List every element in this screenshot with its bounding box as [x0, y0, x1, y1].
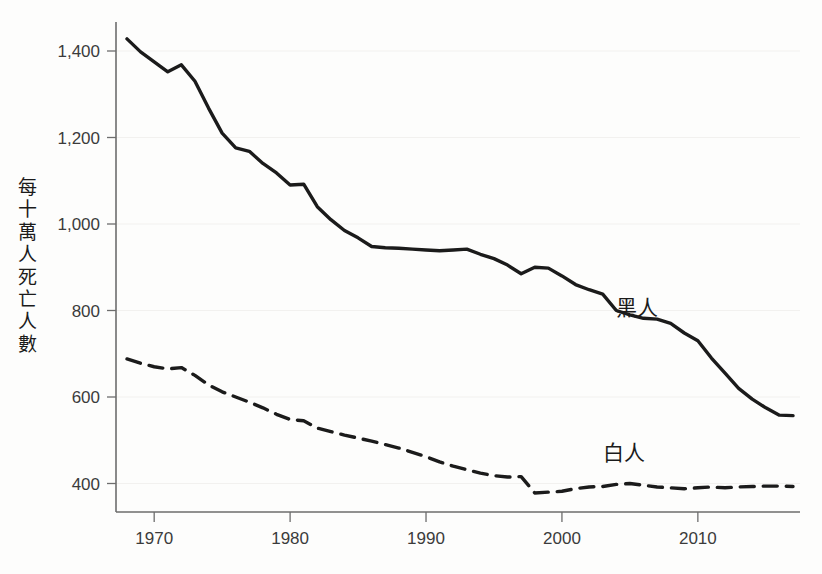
y-tick-label: 1,200	[57, 129, 100, 148]
series-label-2: 白人	[603, 441, 645, 465]
line-chart: 4006008001,0001,2001,400 197019801990200…	[0, 0, 822, 574]
x-axis-ticks: 19701980199020002010	[135, 512, 717, 548]
x-tick-label: 2010	[679, 529, 717, 548]
x-tick-label: 1980	[271, 529, 309, 548]
y-tick-label: 600	[72, 388, 100, 407]
x-tick-label: 1990	[407, 529, 445, 548]
series-line-2	[127, 359, 793, 493]
y-tick-label: 800	[72, 302, 100, 321]
y-tick-label: 1,000	[57, 215, 100, 234]
y-tick-label: 1,400	[57, 42, 100, 61]
series-labels: 黑人白人	[603, 296, 659, 465]
series-lines	[127, 39, 793, 493]
y-tick-label: 400	[72, 475, 100, 494]
series-label-1: 黑人	[616, 296, 658, 320]
x-tick-label: 2000	[543, 529, 581, 548]
chart-container: 每十萬人死亡人數 4006008001,0001,2001,400 197019…	[0, 0, 822, 574]
gridlines	[116, 51, 800, 484]
x-tick-label: 1970	[135, 529, 173, 548]
series-line-1	[127, 39, 793, 416]
y-axis-ticks: 4006008001,0001,2001,400	[57, 42, 116, 494]
